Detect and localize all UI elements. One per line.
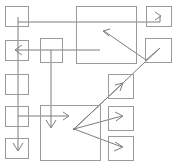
node-top-center-large[interactable] xyxy=(77,7,137,64)
node-top-left[interactable] xyxy=(6,7,29,27)
edge-hub-to-bottom-right-line xyxy=(74,129,122,147)
node-bottom-right-rect xyxy=(109,137,134,161)
diagram-canvas xyxy=(0,0,178,168)
node-bottom-center-large-rect xyxy=(41,106,101,161)
node-bottom-center-large[interactable] xyxy=(41,106,101,161)
edge-vertical-left-spine xyxy=(13,22,23,151)
node-right-zigzag-rect xyxy=(146,39,172,63)
node-right-zigzag[interactable] xyxy=(146,39,172,63)
edge-hub-to-bottom-right-arrowhead-icon xyxy=(114,142,123,151)
node-bottom-right[interactable] xyxy=(109,137,134,161)
node-left-3[interactable] xyxy=(6,75,29,95)
edge-zigzag-to-top-center-large xyxy=(74,29,160,129)
edge-top-left-to-top-right xyxy=(18,12,161,22)
edge-right-to-left-horizontal xyxy=(15,45,100,55)
edge-layer xyxy=(13,12,161,151)
node-top-right[interactable] xyxy=(147,7,172,27)
diagram-svg xyxy=(0,0,178,168)
node-right-3[interactable] xyxy=(109,75,134,99)
edge-hub-to-right-4 xyxy=(74,112,123,129)
edge-top-left-to-top-right-line xyxy=(18,16,160,22)
node-top-center-large-rect xyxy=(77,7,137,64)
node-left-3-rect xyxy=(6,75,29,95)
edge-hub-to-bottom-right xyxy=(74,129,123,151)
node-right-3-rect xyxy=(109,75,134,99)
edge-left-4-to-bottom-center xyxy=(18,112,69,120)
edge-zigzag-to-top-center-large-line xyxy=(74,31,160,129)
node-layer xyxy=(6,7,172,161)
node-top-left-rect xyxy=(6,7,29,27)
node-top-right-rect xyxy=(147,7,172,27)
arrow-hub-junction xyxy=(73,128,75,130)
